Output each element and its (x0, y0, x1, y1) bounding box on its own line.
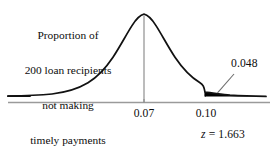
tail-callout-leader-line (218, 74, 235, 93)
caption-line-1: Proportion of (11, 30, 125, 42)
curve-caption: Proportion of 200 loan recipients not ma… (11, 7, 125, 153)
z-number: 1.663 (218, 128, 245, 141)
normal-distribution-figure: Proportion of 200 loan recipients not ma… (0, 0, 274, 153)
x-tick-label-critical: 0.10 (186, 108, 226, 120)
z-score-label: z = 1.663 (193, 129, 253, 141)
z-equals: = (206, 128, 219, 141)
tail-area-label: 0.048 (231, 58, 258, 70)
caption-line-2: 200 loan recipients (11, 65, 125, 77)
caption-line-4: timely payments (11, 135, 125, 147)
caption-line-3: not making (11, 100, 125, 112)
x-tick-label-mean: 0.07 (124, 108, 164, 120)
